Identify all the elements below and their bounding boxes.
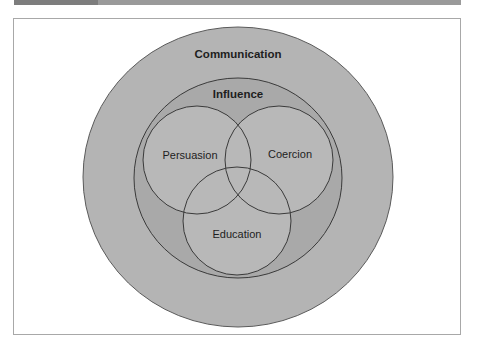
influence-label: Influence [213, 88, 263, 100]
education-label: Education [213, 228, 262, 240]
communication-label: Communication [195, 48, 282, 60]
education-circle-fill [183, 167, 291, 275]
persuasion-label: Persuasion [162, 149, 217, 161]
coercion-label: Coercion [268, 148, 312, 160]
venn-diagram: Communication Influence Persuasion Coerc… [0, 0, 478, 351]
